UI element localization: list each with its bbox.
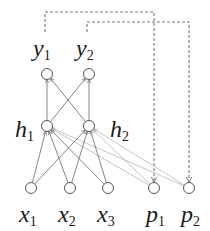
label-p2: p2 (179, 201, 200, 229)
label-h2: h2 (110, 116, 129, 144)
node-x1 (26, 183, 37, 194)
node-y1 (42, 69, 53, 80)
network-edges (32, 79, 106, 184)
label-h1: h1 (15, 116, 34, 144)
label-x1: x1 (18, 201, 37, 229)
node-p1 (149, 183, 160, 194)
node-p2 (184, 183, 195, 194)
node-x2 (65, 183, 76, 194)
edge-x2-h1 (49, 132, 68, 183)
node-h2 (84, 121, 95, 132)
node-h1 (42, 121, 53, 132)
node-labels: y1y2h1h2x1x2x3p1p2 (15, 35, 200, 229)
label-x2: x2 (57, 201, 76, 229)
label-y1: y1 (31, 35, 51, 63)
edge-x3-h2 (91, 132, 107, 183)
edge-x2-h2 (72, 132, 88, 183)
label-y2: y2 (74, 35, 94, 63)
label-p1: p1 (144, 201, 165, 229)
neural-network-diagram: y1y2h1h2x1x2x3p1p2 (0, 0, 210, 231)
feedback-dashed-edges (45, 12, 189, 182)
node-x3 (103, 183, 114, 194)
node-y2 (84, 69, 95, 80)
dashed-edge-y2-p2 (87, 22, 189, 182)
edge-p2-h2 (94, 129, 184, 185)
label-x3: x3 (96, 201, 115, 229)
